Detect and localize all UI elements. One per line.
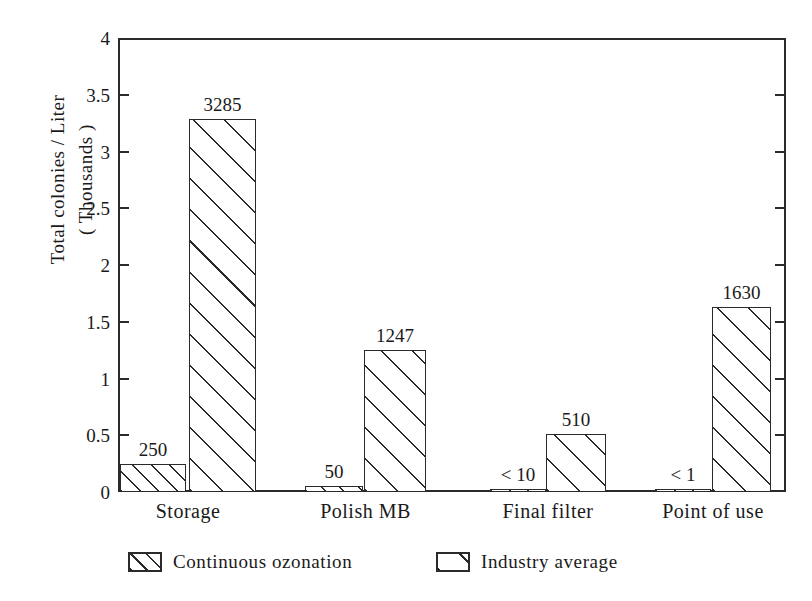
x-category-label-point-of-use: Point of use xyxy=(613,500,812,523)
legend-label-industry-average: Industry average xyxy=(481,551,618,573)
y-tick-right xyxy=(775,264,786,266)
y-tick-left xyxy=(118,321,129,323)
y-tick-label: 1.5 xyxy=(64,313,110,332)
y-tick-right xyxy=(775,207,786,209)
y-tick-right xyxy=(775,434,786,436)
y-tick-label: 4 xyxy=(64,29,110,48)
y-tick-label: 2.5 xyxy=(64,199,110,218)
bar-industry-average-final-filter xyxy=(546,434,606,492)
x-category-label-polish-mb: Polish MB xyxy=(266,500,466,523)
legend-item-continuous-ozonation: Continuous ozonation xyxy=(128,551,352,573)
y-tick-left xyxy=(118,434,129,436)
bar-value-label: 3285 xyxy=(163,95,282,114)
legend-item-industry-average: Industry average xyxy=(436,551,618,573)
y-tick-left xyxy=(118,264,129,266)
bar-continuous-ozonation-storage xyxy=(120,464,186,492)
bar-value-label: 510 xyxy=(520,410,632,429)
bar-value-label: 1247 xyxy=(338,326,452,345)
legend-swatch-continuous-ozonation xyxy=(128,552,162,572)
legend-label-continuous-ozonation: Continuous ozonation xyxy=(173,551,352,573)
y-tick-right xyxy=(775,378,786,380)
legend-swatch-industry-average xyxy=(436,552,470,572)
y-tick-left xyxy=(118,94,129,96)
bar-industry-average-polish-mb xyxy=(364,350,426,492)
y-tick-right xyxy=(775,94,786,96)
x-category-label-storage: Storage xyxy=(88,500,288,523)
y-tick-left xyxy=(118,151,129,153)
y-tick-label: 1 xyxy=(64,370,110,389)
bar-continuous-ozonation-point-of-use xyxy=(655,489,711,492)
bar-continuous-ozonation-polish-mb xyxy=(305,486,363,492)
y-tick-left xyxy=(118,207,129,209)
y-tick-right xyxy=(775,321,786,323)
y-tick-label: 2 xyxy=(64,256,110,275)
y-tick-left xyxy=(118,378,129,380)
bar-industry-average-storage xyxy=(189,119,256,492)
bar-value-label: 1630 xyxy=(686,283,797,302)
y-tick-label: 3 xyxy=(64,143,110,162)
bar-continuous-ozonation-final-filter xyxy=(490,489,546,492)
chart-figure: Total colonies / Liter ( Thousands ) 00.… xyxy=(0,0,812,601)
y-tick-label: 3.5 xyxy=(64,86,110,105)
bar-industry-average-point-of-use xyxy=(712,307,771,492)
y-tick-right xyxy=(775,151,786,153)
